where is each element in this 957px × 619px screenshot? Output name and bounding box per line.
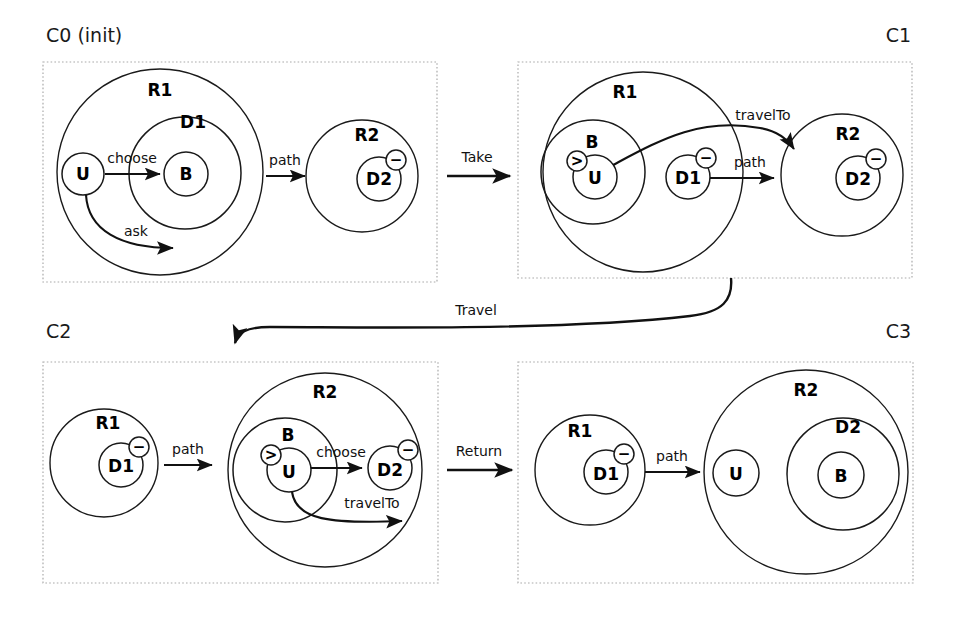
transition-return-label: Return <box>456 443 502 459</box>
c1-node-d2-site-mark: − <box>870 150 883 168</box>
c3-node-b-label: B <box>835 466 848 486</box>
panel-c1[interactable]: C1 R1 B U > D1 − R2 D2 − travelTo path <box>518 24 912 278</box>
c0-node-b-label: B <box>180 164 193 184</box>
c1-region-r1-label: R1 <box>613 82 638 102</box>
c1-node-d1-label: D1 <box>675 168 701 188</box>
bigraph-diagram: C0 (init) R1 D1 B U choose ask R2 D2 − p… <box>0 0 957 619</box>
c0-edge-choose-label: choose <box>107 150 157 166</box>
c2-edge-path-label: path <box>172 441 204 457</box>
c2-node-d1-label: D1 <box>108 456 134 476</box>
transition-travel[interactable]: Travel <box>235 278 731 343</box>
c1-edge-travelto-label: travelTo <box>735 107 790 123</box>
c0-edge-ask-label: ask <box>124 223 149 239</box>
transition-return[interactable]: Return <box>447 443 512 470</box>
transition-take-label: Take <box>460 149 492 165</box>
transition-travel-label: Travel <box>454 302 497 318</box>
c0-region-r1-label: R1 <box>148 80 173 100</box>
c1-node-d1-site-mark: − <box>700 149 713 167</box>
c1-node-u-control-mark: > <box>571 152 584 170</box>
c2-edge-travelto-label: travelTo <box>344 495 399 511</box>
c2-edge-choose-label: choose <box>316 444 366 460</box>
c2-node-d2-site-mark: − <box>402 441 415 459</box>
panel-c0[interactable]: C0 (init) R1 D1 B U choose ask R2 D2 − p… <box>43 24 437 282</box>
c2-node-d2-label: D2 <box>377 460 403 480</box>
c0-node-d2-site-mark: − <box>390 151 403 169</box>
c3-node-d2-label: D2 <box>835 417 861 437</box>
panel-c0-label: C0 (init) <box>46 24 122 46</box>
panel-c3[interactable]: C3 R1 D1 − path R2 U D2 B <box>518 320 913 583</box>
c2-node-u-label: U <box>282 462 296 482</box>
c0-node-d1-label: D1 <box>180 112 206 132</box>
transition-take[interactable]: Take <box>447 149 510 176</box>
c1-edge-path-label: path <box>734 154 766 170</box>
panel-c1-label: C1 <box>886 24 911 46</box>
panel-c3-label: C3 <box>886 320 911 342</box>
c3-region-r2-label: R2 <box>794 380 819 400</box>
c0-edge-path-label: path <box>269 152 301 168</box>
c1-region-r2-label: R2 <box>836 124 861 144</box>
c2-region-r2-label: R2 <box>313 382 338 402</box>
c1-node-d2-label: D2 <box>845 169 871 189</box>
c2-node-b-label: B <box>282 425 295 445</box>
c1-node-u-label: U <box>588 168 602 188</box>
c0-node-d2-label: D2 <box>366 169 392 189</box>
c2-node-u-control-mark: > <box>265 446 278 464</box>
c0-region-r2-label: R2 <box>355 125 380 145</box>
panel-c2[interactable]: C2 R1 D1 − path R2 B U > D2 − choose <box>43 320 438 583</box>
c3-node-d1-label: D1 <box>593 464 619 484</box>
c3-edge-path-label: path <box>656 448 688 464</box>
c2-node-d1-site-mark: − <box>133 438 146 456</box>
diagram-canvas: C0 (init) R1 D1 B U choose ask R2 D2 − p… <box>0 0 957 619</box>
c0-node-u-label: U <box>76 164 90 184</box>
c3-node-d1-site-mark: − <box>618 445 631 463</box>
c3-node-u-label: U <box>729 464 743 484</box>
c3-region-r1-label: R1 <box>568 421 593 441</box>
c2-region-r1-label: R1 <box>96 413 121 433</box>
panel-c2-label: C2 <box>46 320 71 342</box>
c1-node-b-label: B <box>586 132 599 152</box>
